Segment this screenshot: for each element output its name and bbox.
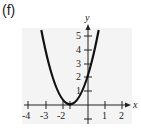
y-tick-label: 2 xyxy=(76,71,81,82)
x-tick-label: -3 xyxy=(40,110,48,121)
x-tick-label: 1 xyxy=(102,110,107,121)
x-tick-label: 2 xyxy=(119,110,124,121)
y-axis-arrow-icon xyxy=(86,24,91,30)
x-axis-label: x xyxy=(132,99,138,110)
y-tick-label: 5 xyxy=(76,30,81,41)
y-axis-label: y xyxy=(84,12,90,23)
y-tick-label: 4 xyxy=(76,44,81,55)
x-tick-label: -4 xyxy=(22,110,30,121)
parabola-chart: x y -4 -3 -2 1 2 5 4 3 2 1 xyxy=(0,0,141,131)
y-tick-label: 3 xyxy=(76,58,81,69)
x-tick-label: -2 xyxy=(57,110,65,121)
